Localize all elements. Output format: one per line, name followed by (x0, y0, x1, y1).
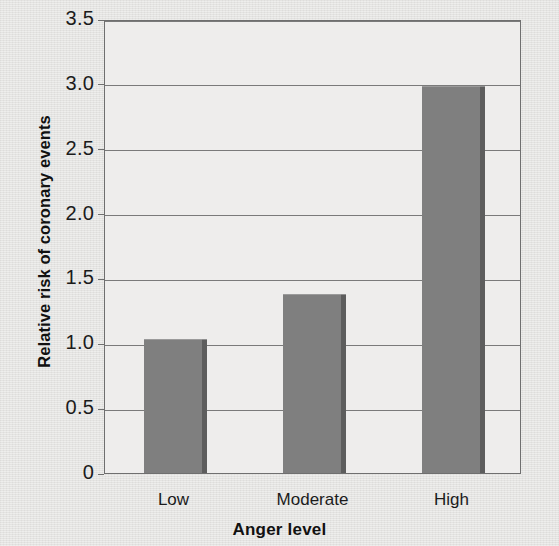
y-tick-label: 2.5 (16, 137, 94, 160)
bar (144, 339, 202, 473)
bar-side-shadow (341, 295, 346, 473)
y-tick-label: 1.5 (16, 266, 94, 289)
bar-chart-figure: Relative risk of coronary events 00.51.0… (0, 0, 559, 546)
bar (283, 294, 341, 473)
bar (422, 86, 480, 473)
bar-top-highlight (341, 294, 346, 295)
y-tick-label: 0.5 (16, 396, 94, 419)
y-tick-label: 3.5 (16, 7, 94, 30)
y-tick-label: 3.0 (16, 72, 94, 95)
gridline (105, 21, 520, 22)
bar-top-highlight (202, 339, 207, 340)
plot-area (104, 20, 521, 474)
bar-side-shadow (202, 340, 207, 473)
y-tick-label: 2.0 (16, 202, 94, 225)
x-tick-label: High (382, 490, 522, 510)
x-tick-label: Low (104, 490, 244, 510)
y-tick-label: 1.0 (16, 331, 94, 354)
x-tick-label: Moderate (243, 490, 383, 510)
x-axis-title: Anger level (0, 520, 559, 540)
bar-side-shadow (480, 87, 485, 473)
y-tick-label: 0 (16, 461, 94, 484)
bar-top-highlight (480, 86, 485, 87)
